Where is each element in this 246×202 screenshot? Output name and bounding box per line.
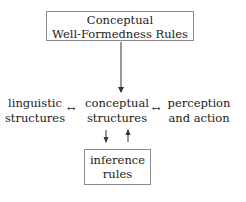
left-node-line2: structures [4, 111, 66, 126]
left-node-line1: linguistic [4, 96, 66, 111]
perception-and-action-node: perception and action [166, 96, 232, 125]
right-node-line1: perception [166, 96, 232, 111]
center-node-line1: conceptual [84, 96, 150, 111]
right-node-line2: and action [166, 111, 232, 126]
linguistic-structures-node: linguistic structures [4, 96, 66, 125]
center-node-line2: structures [84, 111, 150, 126]
conceptual-well-formedness-rules-box: Conceptual Well-Formedness Rules [46, 11, 194, 41]
top-box-line2: Well-Formedness Rules [47, 27, 193, 41]
right-double-arrow-icon: ↔ [152, 104, 160, 114]
conceptual-structures-node: conceptual structures [84, 96, 150, 125]
bottom-box-line1: inference [85, 153, 150, 167]
bottom-box-line2: rules [85, 167, 150, 181]
top-box-line1: Conceptual [47, 13, 193, 27]
left-double-arrow-icon: ↔ [67, 104, 75, 114]
inference-rules-box: inference rules [84, 149, 151, 185]
